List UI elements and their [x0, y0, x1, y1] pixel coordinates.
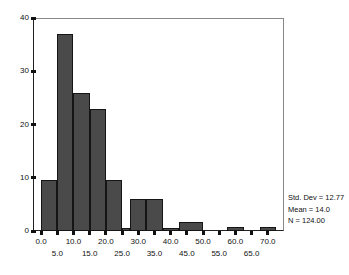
- x-axis-tick: [250, 231, 253, 235]
- histogram-bar: [57, 34, 73, 231]
- y-axis-label: 40: [2, 14, 29, 22]
- y-axis-tick: [31, 230, 36, 233]
- x-axis-tick: [266, 231, 269, 235]
- x-axis-label: 65.0: [237, 250, 267, 258]
- x-axis-tick: [202, 231, 205, 235]
- histogram-bars: [33, 18, 284, 231]
- std-dev-label: Std. Dev = 12.77: [288, 192, 349, 204]
- x-axis-label: 20.0: [91, 238, 121, 246]
- y-axis-label: 30: [2, 67, 29, 75]
- x-axis-tick: [88, 231, 91, 235]
- y-axis-label: 0: [2, 227, 29, 235]
- y-axis-label: 20: [2, 121, 29, 129]
- histogram-bar: [73, 93, 89, 231]
- x-axis-label: 10.0: [58, 238, 88, 246]
- x-axis-tick: [234, 231, 237, 235]
- x-axis-tick: [104, 231, 107, 235]
- y-axis-tick: [31, 176, 36, 179]
- histogram-bar: [106, 180, 122, 231]
- histogram-bar: [130, 199, 146, 231]
- x-axis-tick: [56, 231, 59, 235]
- n-label: N = 124.00: [288, 215, 349, 227]
- x-axis-label: 40.0: [156, 238, 186, 246]
- y-axis-label: 10: [2, 174, 29, 182]
- x-axis-label: 50.0: [188, 238, 218, 246]
- x-axis-label: 35.0: [139, 250, 169, 258]
- x-axis-label: 55.0: [204, 250, 234, 258]
- histogram-bar: [146, 199, 162, 231]
- x-axis-label: 45.0: [172, 250, 202, 258]
- statistics-annotation: Std. Dev = 12.77 Mean = 14.0 N = 124.00: [288, 192, 349, 227]
- x-axis-label: 0.0: [26, 238, 56, 246]
- y-axis-tick: [31, 70, 36, 73]
- x-axis-label: 60.0: [220, 238, 250, 246]
- x-axis-tick: [40, 231, 43, 235]
- x-axis-tick: [121, 231, 124, 235]
- histogram-bar: [41, 180, 57, 231]
- x-axis-label: 25.0: [107, 250, 137, 258]
- histogram-bar: [179, 222, 203, 231]
- histogram-bar: [90, 109, 106, 231]
- x-axis-tick: [72, 231, 75, 235]
- y-axis-tick: [31, 17, 36, 20]
- x-axis-label: 5.0: [42, 250, 72, 258]
- x-axis-tick: [218, 231, 221, 235]
- x-axis-label: 30.0: [123, 238, 153, 246]
- y-axis-tick: [31, 123, 36, 126]
- x-axis-tick: [153, 231, 156, 235]
- x-axis-tick: [169, 231, 172, 235]
- x-axis-tick: [185, 231, 188, 235]
- x-axis-label: 70.0: [253, 238, 283, 246]
- histogram-chart: 010203040 0.010.020.030.040.050.060.070.…: [0, 0, 349, 275]
- mean-label: Mean = 14.0: [288, 204, 349, 216]
- x-axis-label: 15.0: [75, 250, 105, 258]
- x-axis-tick: [137, 231, 140, 235]
